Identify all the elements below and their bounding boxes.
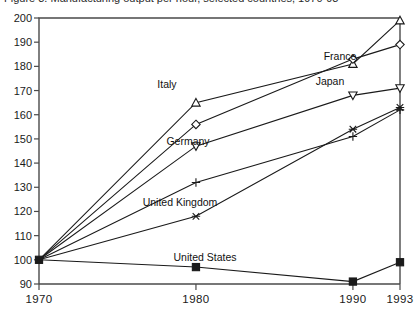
data-point-marker <box>192 213 200 220</box>
y-tick-label: 140 <box>14 157 32 169</box>
data-point-marker <box>192 178 200 186</box>
series-label-united-kingdom: United Kingdom <box>143 196 218 208</box>
y-tick-label: 130 <box>14 181 32 193</box>
x-tick-label: 1970 <box>25 293 52 305</box>
y-tick-label: 90 <box>20 278 32 290</box>
x-tick-label: 1990 <box>339 293 366 305</box>
data-point-marker <box>396 40 404 48</box>
x-tick-label: 1993 <box>386 293 413 305</box>
y-tick-label: 180 <box>14 60 32 72</box>
y-tick-label: 110 <box>14 230 32 242</box>
data-point-marker <box>396 259 403 266</box>
series-label-italy: Italy <box>157 78 177 90</box>
series-line <box>39 260 400 282</box>
y-tick-label: 120 <box>14 205 32 217</box>
y-tick-label: 100 <box>14 254 32 266</box>
y-tick-label: 200 <box>14 12 32 24</box>
x-tick-label: 1980 <box>182 293 209 305</box>
line-chart: 9010011012013014015016017018019020019701… <box>0 0 419 309</box>
y-tick-label: 170 <box>14 85 32 97</box>
series-line <box>39 110 400 260</box>
series-label-japan: Japan <box>316 75 345 87</box>
series-line <box>39 45 400 260</box>
chart-canvas: 9010011012013014015016017018019020019701… <box>0 0 419 309</box>
series-label-germany: Germany <box>166 135 210 147</box>
series-label-united-states: United States <box>173 251 236 263</box>
chart-series-labels: ItalyFranceJapanGermanyUnited KingdomUni… <box>143 50 357 263</box>
y-tick-label: 160 <box>14 109 32 121</box>
y-tick-label: 190 <box>14 36 32 48</box>
series-label-france: France <box>324 50 357 62</box>
series-line <box>39 107 400 259</box>
data-point-marker <box>349 132 357 140</box>
series-line <box>39 88 400 260</box>
origin-marker <box>35 256 42 263</box>
y-tick-label: 150 <box>14 133 32 145</box>
data-point-marker <box>349 126 357 133</box>
data-point-marker <box>349 278 356 285</box>
data-point-marker <box>192 263 199 270</box>
